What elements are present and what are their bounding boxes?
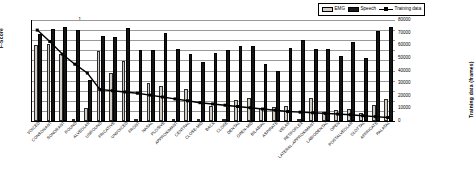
bar-emg bbox=[272, 107, 276, 121]
bar-group bbox=[370, 20, 383, 121]
bar-group bbox=[257, 20, 270, 121]
y-tick-right: 70000 bbox=[398, 31, 432, 36]
bar-emg bbox=[59, 54, 63, 121]
bar-emg bbox=[122, 61, 126, 121]
bar-emg bbox=[372, 105, 376, 121]
bar-group bbox=[132, 20, 145, 121]
bar-group bbox=[70, 20, 83, 121]
bar-speech bbox=[189, 54, 193, 121]
x-tick-label: FRONT bbox=[128, 121, 141, 134]
bar-speech bbox=[251, 46, 255, 121]
bar-group bbox=[232, 20, 245, 121]
bar-group bbox=[207, 20, 220, 121]
legend-label-training-data: Training data bbox=[395, 7, 422, 12]
y-axis-right-title: Training data (frames) bbox=[468, 61, 474, 118]
legend-swatch-training-data bbox=[379, 7, 393, 12]
bar-speech bbox=[339, 56, 343, 121]
legend-swatch-speech bbox=[348, 7, 359, 12]
bar-group bbox=[332, 20, 345, 121]
bar-speech bbox=[276, 71, 280, 122]
bar-speech bbox=[88, 80, 92, 121]
bar-emg bbox=[147, 83, 151, 121]
bar-speech bbox=[38, 34, 42, 121]
bar-emg bbox=[34, 45, 38, 121]
legend-item-emg: EMG bbox=[322, 7, 345, 12]
bar-emg bbox=[284, 106, 288, 121]
bar-group bbox=[307, 20, 320, 121]
bar-group bbox=[82, 20, 95, 121]
bar-emg bbox=[234, 100, 238, 121]
bar-group bbox=[145, 20, 158, 121]
bar-group bbox=[195, 20, 208, 121]
bar-speech bbox=[326, 49, 330, 121]
bar-emg bbox=[309, 98, 313, 121]
bar-speech bbox=[226, 50, 230, 121]
bar-group bbox=[382, 20, 395, 121]
bar-speech bbox=[376, 31, 380, 121]
x-axis-labels: VOICEDCONSONANTSONORANTROUNDALVEOLARUNRO… bbox=[31, 121, 394, 179]
bar-emg bbox=[322, 112, 326, 121]
bar-emg bbox=[247, 98, 251, 121]
bar-emg bbox=[184, 89, 188, 121]
bar-speech bbox=[139, 50, 143, 121]
bar-speech bbox=[113, 37, 117, 121]
bar-group bbox=[170, 20, 183, 121]
y-tick-right: 60000 bbox=[398, 43, 432, 48]
bar-speech bbox=[314, 49, 318, 121]
bar-group bbox=[220, 20, 233, 121]
bar-emg bbox=[384, 99, 388, 121]
bar-speech bbox=[301, 40, 305, 121]
legend-item-speech: Speech bbox=[348, 7, 376, 12]
bar-group bbox=[95, 20, 108, 121]
bar-group bbox=[157, 20, 170, 121]
bar-speech bbox=[51, 29, 55, 121]
bar-group bbox=[282, 20, 295, 121]
legend-item-training-data: Training data bbox=[379, 7, 421, 12]
bar-speech bbox=[364, 58, 368, 121]
legend-swatch-emg bbox=[322, 7, 333, 12]
y-axis-left-title: F-Score bbox=[0, 28, 4, 48]
bar-speech bbox=[214, 53, 218, 121]
bar-speech bbox=[76, 30, 80, 121]
bar-emg bbox=[84, 108, 88, 121]
bar-speech bbox=[164, 33, 168, 121]
bar-group bbox=[270, 20, 283, 121]
bar-emg bbox=[47, 44, 51, 121]
bar-group bbox=[107, 20, 120, 121]
y-tick-right: 40000 bbox=[398, 69, 432, 74]
bar-speech bbox=[201, 62, 205, 121]
bar-group bbox=[345, 20, 358, 121]
bar-speech bbox=[389, 27, 393, 121]
bar-emg bbox=[109, 73, 113, 121]
bar-group bbox=[245, 20, 258, 121]
chart-legend: EMG Speech Training data bbox=[318, 3, 425, 16]
bar-speech bbox=[289, 48, 293, 121]
bar-group bbox=[182, 20, 195, 121]
y-tick-right: 30000 bbox=[398, 81, 432, 86]
bar-group bbox=[120, 20, 133, 121]
f-score-training-data-chart: EMG Speech Training data F-Score Trainin… bbox=[0, 0, 476, 179]
bar-speech bbox=[264, 64, 268, 121]
y-tick-right: 50000 bbox=[398, 56, 432, 61]
bar-emg bbox=[159, 86, 163, 121]
bar-speech bbox=[176, 49, 180, 121]
legend-label-speech: Speech bbox=[360, 7, 376, 12]
bar-group bbox=[32, 20, 45, 121]
y-tick-right: 80000 bbox=[398, 18, 432, 23]
bar-speech bbox=[151, 50, 155, 121]
bar-speech bbox=[126, 28, 130, 121]
bar-speech bbox=[351, 42, 355, 121]
plot-area bbox=[31, 20, 395, 122]
bar-group bbox=[57, 20, 70, 121]
bar-emg bbox=[259, 108, 263, 121]
bar-speech bbox=[239, 46, 243, 121]
bar-group bbox=[295, 20, 308, 121]
y-tick-right: 20000 bbox=[398, 94, 432, 99]
bar-emg bbox=[97, 51, 101, 121]
bar-group bbox=[357, 20, 370, 121]
bar-speech bbox=[63, 27, 67, 121]
legend-label-emg: EMG bbox=[335, 7, 345, 12]
bar-emg bbox=[209, 106, 213, 121]
y-tick-right: 10000 bbox=[398, 106, 432, 111]
bar-speech bbox=[101, 36, 105, 121]
